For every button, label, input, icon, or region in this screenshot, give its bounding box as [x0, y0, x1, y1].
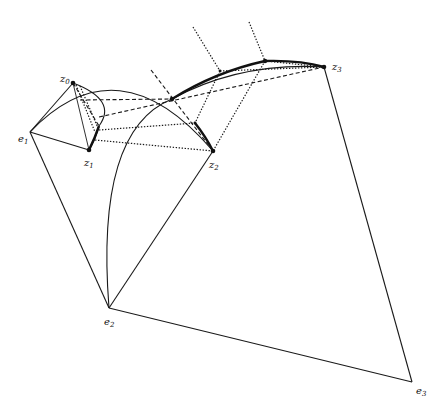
label-e3: e3 [416, 385, 427, 398]
label-z0: z0 [59, 73, 70, 86]
dot-p5-p4 [99, 123, 195, 130]
edge-e1-e2 [30, 132, 109, 308]
dot-top-p3 [249, 22, 265, 61]
dashed-lines [73, 67, 324, 151]
edge-z0-z1-chord [73, 83, 89, 150]
labels: z0 z1 z2 z3 e1 e2 e3 [18, 61, 427, 398]
point-z1 [87, 148, 92, 153]
geometric-diagram: z0 z1 z2 z3 e1 e2 e3 [0, 0, 441, 419]
arcs [30, 66, 324, 308]
point-p3 [263, 59, 267, 63]
edge-e1-z0 [30, 83, 73, 132]
bold-arc-p4-z2 [195, 123, 213, 151]
dash-z0-z3 [73, 83, 99, 126]
point-z0 [71, 81, 76, 86]
edge-z3-e3 [324, 67, 412, 382]
point-p1 [170, 97, 175, 102]
point-p4 [194, 122, 197, 125]
edge-z2-e2 [109, 151, 213, 308]
bold-arcs [89, 61, 324, 151]
dot-z1-z2 [95, 140, 213, 151]
arc-e2-z3 [107, 66, 324, 308]
dash-p5-z3 [99, 67, 324, 117]
dash-p5-p1 [80, 99, 172, 100]
point-z2 [211, 149, 216, 154]
label-z3: z3 [331, 61, 342, 74]
edge-e2-e3 [109, 308, 412, 382]
point-p2 [219, 70, 222, 73]
label-z1: z1 [83, 157, 94, 170]
point-z3 [322, 65, 327, 70]
points [71, 59, 327, 154]
dot-top-p2 [193, 27, 220, 71]
label-e2: e2 [104, 316, 115, 329]
label-e1: e1 [18, 133, 28, 146]
edge-e1-z1 [30, 132, 89, 150]
label-z2: z2 [208, 159, 219, 172]
